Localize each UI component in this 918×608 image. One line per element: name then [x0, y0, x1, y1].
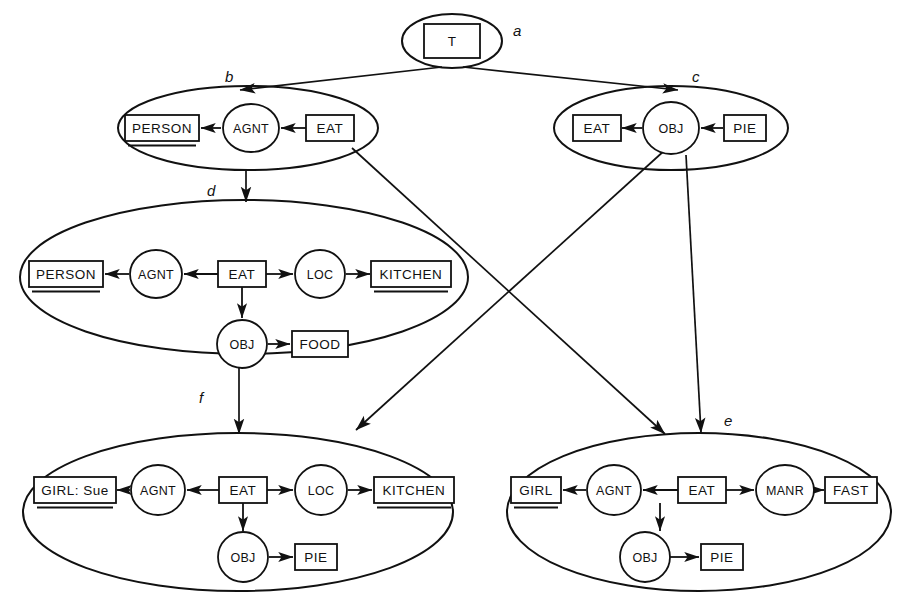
relation-label-obj: OBJ	[658, 122, 683, 136]
concept-label-eat: EAT	[229, 267, 256, 282]
relation-label-obj: OBJ	[632, 551, 657, 565]
lattice-edge-c-to-e	[686, 155, 701, 433]
relation-label-loc: LOC	[308, 484, 335, 498]
concept-label-eat: EAT	[317, 121, 344, 136]
lattice-label-c: c	[692, 68, 700, 85]
context-e[interactable]: AGNTMANROBJGIRLEATFASTPIE	[507, 433, 891, 591]
concept-label-eat: EAT	[584, 121, 611, 136]
relation-label-agnt: AGNT	[138, 268, 174, 282]
relation-label-agnt: AGNT	[596, 484, 632, 498]
relation-label-obj: OBJ	[229, 338, 254, 352]
context-f[interactable]: AGNTLOCOBJGIRL: SueEATKITCHENPIE	[23, 433, 454, 591]
concept-label-girl: GIRL	[519, 483, 553, 498]
lattice-label-d: d	[207, 182, 215, 199]
lattice-label-f: f	[199, 389, 203, 406]
context-ellipse-e[interactable]	[507, 433, 891, 591]
relation-label-loc: LOC	[307, 268, 334, 282]
conceptual-graph-diagram: TAGNTPERSONEATOBJEATPIEAGNTLOCOBJPERSONE…	[0, 0, 918, 608]
concept-label-food: FOOD	[300, 337, 341, 352]
diagram-canvas: TAGNTPERSONEATOBJEATPIEAGNTLOCOBJPERSONE…	[0, 0, 918, 608]
context-d[interactable]: AGNTLOCOBJPERSONEATKITCHENFOOD	[20, 200, 468, 368]
relation-label-agnt: AGNT	[140, 484, 176, 498]
lattice-label-a: a	[513, 22, 521, 39]
concept-label-person: PERSON	[132, 121, 192, 136]
concept-label-eat: EAT	[689, 483, 716, 498]
relation-label-agnt: AGNT	[233, 122, 269, 136]
context-a[interactable]: T	[402, 14, 502, 68]
concept-label-pie: PIE	[710, 550, 733, 565]
concept-label-pie: PIE	[304, 550, 327, 565]
concept-label-fast: FAST	[833, 483, 869, 498]
context-b[interactable]: AGNTPERSONEAT	[118, 86, 378, 170]
concept-label-kitchen: KITCHEN	[380, 267, 443, 282]
concept-label-kitchen: KITCHEN	[383, 483, 446, 498]
concept-label-person: PERSON	[36, 267, 96, 282]
contexts-layer: TAGNTPERSONEATOBJEATPIEAGNTLOCOBJPERSONE…	[20, 14, 891, 591]
concept-label-pie: PIE	[733, 121, 756, 136]
concept-label-girl-sue: GIRL: Sue	[41, 483, 109, 498]
relation-label-obj: OBJ	[230, 551, 255, 565]
lattice-label-b: b	[225, 68, 233, 85]
relation-label-manr: MANR	[766, 484, 804, 498]
concept-label-eat: EAT	[230, 483, 257, 498]
lattice-label-e: e	[724, 412, 732, 429]
context-c[interactable]: OBJEATPIE	[554, 86, 788, 170]
concept-label-universal-type: T	[448, 34, 457, 49]
lattice-edge-c-to-f	[356, 150, 665, 430]
